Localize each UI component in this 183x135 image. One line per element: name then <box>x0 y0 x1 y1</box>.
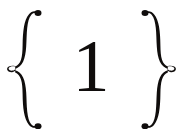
numeral-one: 1 <box>73 29 110 103</box>
image-canvas: 1 <box>0 0 183 135</box>
ornate-right-curly-brace-icon <box>135 0 181 135</box>
ornate-left-curly-brace-icon <box>2 0 48 135</box>
